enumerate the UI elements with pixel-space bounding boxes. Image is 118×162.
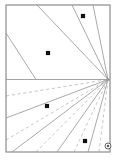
figure-root [0,0,118,162]
lower-ray-1 [6,80,108,97]
lower-ray-6 [57,80,108,153]
vanishing-point [106,78,109,81]
lower-ray-4 [12,80,108,153]
data-point-2 [46,51,50,55]
corner-marker-group [105,143,111,149]
corner-marker-dot [107,145,109,147]
lower-ray-2 [6,80,108,119]
data-point-3 [45,104,49,108]
rays-group [6,5,108,152]
upper-ray-2 [72,5,108,80]
upper-ray-3 [93,5,108,80]
lower-ray-8 [88,80,108,153]
data-points-group [45,14,87,143]
upper-ray-4 [6,33,36,80]
upper-ray-1 [37,5,108,80]
data-point-1 [81,14,85,18]
vanishing-point-group [106,78,109,81]
perspective-diagram [0,0,118,162]
data-point-4 [83,139,87,143]
